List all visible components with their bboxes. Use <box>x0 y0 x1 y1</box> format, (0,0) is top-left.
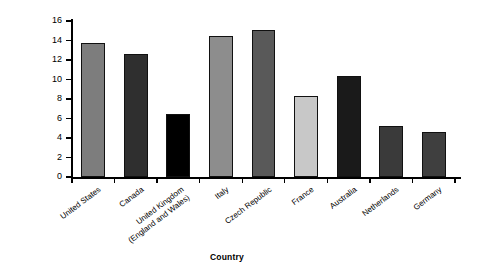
x-axis-tick <box>412 178 413 183</box>
x-axis-tick <box>369 178 370 183</box>
y-axis-tick-label-wrap: 0 <box>44 172 62 181</box>
y-axis-tick <box>66 118 71 119</box>
x-axis-tick-label: Netherlands <box>312 185 401 255</box>
y-axis-tick-label-wrap: 6 <box>44 114 62 123</box>
x-axis-tick <box>454 178 455 183</box>
y-axis-tick-label-wrap: 8 <box>44 94 62 103</box>
y-axis-tick <box>66 98 71 99</box>
bar <box>337 76 361 177</box>
x-axis-tick-label: Germany <box>355 185 444 255</box>
bar <box>294 96 318 177</box>
y-axis-tick-label-wrap: 12 <box>44 55 62 64</box>
x-axis-tick <box>156 178 157 183</box>
x-axis-tick <box>242 178 243 183</box>
y-axis-tick-label-wrap: 4 <box>44 133 62 142</box>
bar <box>252 30 276 177</box>
y-axis-tick <box>66 20 71 21</box>
y-axis-tick-label: 0 <box>44 172 62 181</box>
bar-chart: Percentage 0246810121416 United StatesCa… <box>0 0 487 275</box>
y-axis-tick <box>66 59 71 60</box>
bar <box>124 54 148 177</box>
x-axis-line <box>71 177 461 179</box>
y-axis-tick-label-wrap: 10 <box>44 75 62 84</box>
y-axis-tick-label: 2 <box>44 153 62 162</box>
y-axis-tick-label: 16 <box>44 16 62 25</box>
y-axis-tick-label: 10 <box>44 75 62 84</box>
x-axis-tick <box>114 178 115 183</box>
bar <box>379 126 403 177</box>
bar <box>209 36 233 177</box>
x-axis-tick <box>327 178 328 183</box>
y-axis-tick <box>66 176 71 177</box>
plot-area <box>72 21 455 177</box>
y-axis-tick-label: 6 <box>44 114 62 123</box>
y-axis-tick-label-wrap: 16 <box>44 16 62 25</box>
bar <box>422 132 446 177</box>
x-axis-tick <box>284 178 285 183</box>
x-axis-title: Country <box>210 252 244 262</box>
y-axis-tick-label: 4 <box>44 133 62 142</box>
y-axis-tick-label: 8 <box>44 94 62 103</box>
bar <box>166 114 190 177</box>
bar <box>81 43 105 177</box>
y-axis-tick <box>66 40 71 41</box>
y-axis-tick <box>66 137 71 138</box>
x-axis-tick-label: France <box>227 185 316 255</box>
y-axis-tick-label: 12 <box>44 55 62 64</box>
y-axis-tick <box>66 157 71 158</box>
y-axis-tick-label-wrap: 14 <box>44 36 62 45</box>
y-axis-tick <box>66 79 71 80</box>
x-axis-tick <box>199 178 200 183</box>
y-axis-tick-label: 14 <box>44 36 62 45</box>
y-axis-tick-label-wrap: 2 <box>44 153 62 162</box>
x-axis-tick <box>71 178 72 183</box>
